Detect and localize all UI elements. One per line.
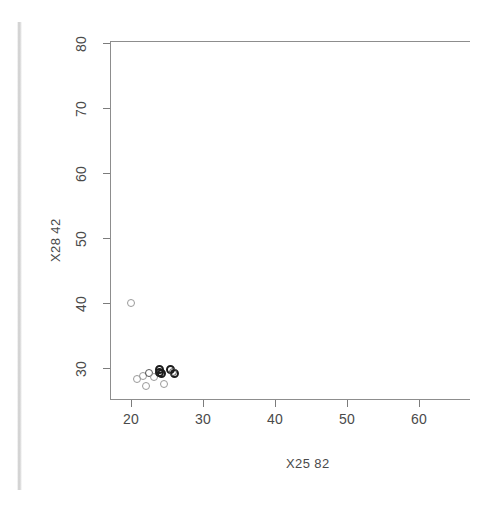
data-point — [160, 380, 168, 388]
data-point — [127, 299, 135, 307]
data-point — [142, 382, 150, 390]
scatter-plot-figure: X28 42 80 70 60 50 40 30 20 30 40 50 60 … — [0, 0, 491, 509]
data-point — [169, 368, 177, 376]
data-points-layer — [0, 0, 491, 509]
